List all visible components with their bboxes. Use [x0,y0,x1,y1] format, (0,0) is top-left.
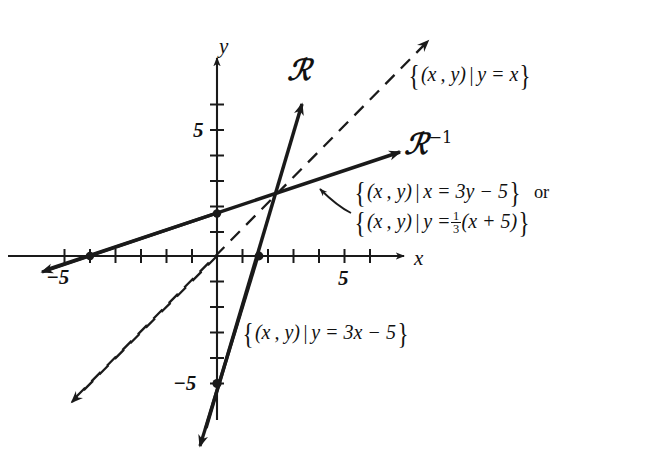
fraction-numerator: 1 [451,210,460,224]
point-0-minus5 [212,379,221,388]
such-that-bar: | [466,63,477,85]
fraction-one-third: 13 [451,210,460,236]
relation-inverse-graph [0,0,645,457]
set-label-identity: {(x , y)|y = x} [407,60,532,90]
inverse-equation-lead: y = [423,210,450,232]
brace-open: { [354,177,365,207]
axis-label-x: x [414,248,423,269]
axis-x [8,249,404,263]
brace-open: { [354,207,365,237]
identity-equation: y = x [477,63,518,85]
curve-label-R-inverse: ℛ−1 [405,130,452,159]
brace-open: { [408,60,419,90]
ordered-pair: (x , y) [421,63,466,85]
inverse-equation-implicit: x = 3y − 5 [423,180,508,202]
y-tick-label-minus5: −5 [173,373,196,394]
relation-equation: y = 3x − 5 [311,321,396,343]
set-label-inverse-first: {(x , y)|x = 3y − 5}or [353,177,549,207]
brace-close: } [509,177,520,207]
inverse-exponent: −1 [429,130,453,146]
curve-label-R: ℛ [288,56,312,85]
brace-close: } [519,207,530,237]
ordered-pair: (x , y) [255,321,300,343]
such-that-bar: | [300,321,311,343]
brace-open: { [242,318,253,348]
fraction-denominator: 3 [451,223,460,236]
script-r-glyph: ℛ [286,56,313,85]
script-r-inverse-glyph: ℛ [403,130,430,159]
x-tick-label-minus5: −5 [46,267,69,288]
annotation-curved-arrow [320,189,351,213]
axis-label-y: y [219,36,228,57]
axis-y [210,58,224,420]
such-that-bar: | [412,180,423,202]
x-tick-label-5: 5 [338,268,349,289]
point-minus5-0 [86,252,94,260]
ordered-pair: (x , y) [367,180,412,202]
point-five-thirds-0 [255,252,264,261]
ordered-pair: (x , y) [367,210,412,232]
inverse-equation-tail: (x + 5) [461,210,517,232]
or-connector: or [534,182,549,202]
inverse-relation-line-R-inverse [42,152,400,272]
set-label-relation: {(x , y)|y = 3x − 5} [241,318,410,348]
set-label-inverse-second: {(x , y)|y =13(x + 5)} [353,207,531,237]
brace-close: } [397,318,408,348]
point-0-five-thirds [213,209,221,217]
brace-close: } [520,60,531,90]
y-tick-label-5: 5 [193,120,204,141]
such-that-bar: | [412,210,423,232]
